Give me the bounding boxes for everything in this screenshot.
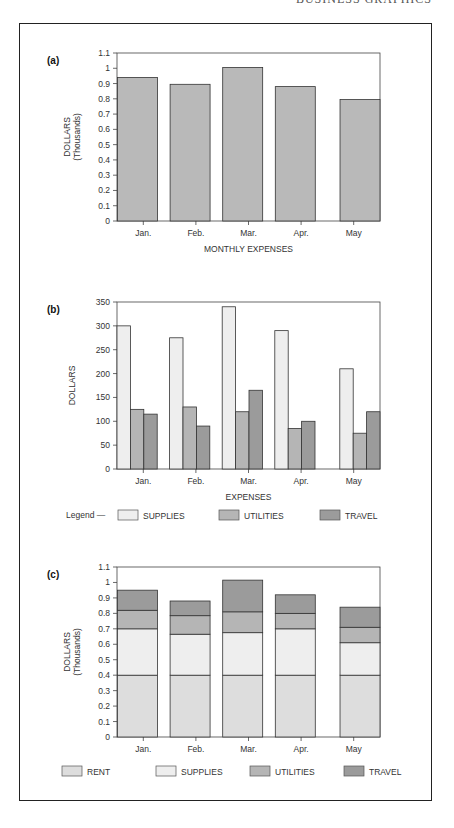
x-tick-label: May: [346, 744, 363, 754]
bar-segment: [340, 607, 380, 627]
bar-segment: [170, 675, 210, 737]
y-tick-label: 100: [96, 416, 110, 426]
y-axis-label: DOLLARS(Thousands): [62, 113, 82, 161]
legend-swatch: [219, 510, 239, 520]
bar-segment: [118, 610, 158, 629]
y-tick-label: 0.5: [98, 655, 110, 665]
y-tick-label: 0.9: [98, 79, 110, 89]
bar-segment: [340, 627, 380, 642]
legend-label: TRAVEL: [345, 511, 378, 521]
x-tick-label: Feb.: [187, 228, 204, 238]
x-tick-label: Mar.: [240, 476, 257, 486]
y-tick-label: 250: [96, 345, 110, 355]
y-axis-label: DOLLARS: [67, 365, 77, 405]
y-tick-label: 0: [105, 732, 110, 742]
y-tick-label: 0.8: [98, 94, 110, 104]
legend-prefix: Legend —: [66, 510, 106, 520]
x-tick-label: Mar.: [240, 744, 257, 754]
y-axis-label: DOLLARS(Thousands): [62, 628, 82, 676]
legend-swatch: [320, 510, 340, 520]
y-tick-label: 0: [105, 216, 110, 226]
y-tick-label: 50: [101, 440, 111, 450]
legend-swatch: [250, 766, 270, 776]
y-tick-label: 150: [96, 392, 110, 402]
y-tick-label: 0.8: [98, 608, 110, 618]
bar: [275, 87, 315, 221]
bar-segment: [170, 601, 210, 616]
bar: [353, 433, 366, 469]
bar: [340, 100, 380, 221]
bar: [302, 421, 315, 469]
legend-label: SUPPLIES: [181, 767, 223, 777]
bar: [196, 426, 209, 469]
x-tick-label: Jan.: [135, 744, 151, 754]
bar-segment: [170, 634, 210, 675]
x-tick-label: May: [346, 476, 363, 486]
y-tick-label: 0: [105, 464, 110, 474]
legend-swatch: [62, 766, 82, 776]
bar: [223, 68, 263, 221]
bar: [249, 390, 262, 469]
bar-segment: [223, 612, 263, 633]
bar-segment: [118, 629, 158, 675]
panel-label: (b): [47, 304, 60, 315]
y-tick-label: 1: [105, 63, 110, 73]
bar: [275, 331, 288, 469]
bar: [144, 414, 157, 469]
x-axis-label: MONTHLY EXPENSES: [204, 244, 293, 254]
y-tick-label: 0.3: [98, 686, 110, 696]
x-tick-label: Jan.: [135, 228, 151, 238]
bar: [170, 84, 210, 221]
bar-segment: [223, 580, 263, 612]
y-tick-label: 1.1: [98, 48, 110, 58]
bar-segment: [340, 675, 380, 737]
legend-label: UTILITIES: [275, 767, 315, 777]
y-tick-label: 0.4: [98, 155, 110, 165]
bar-segment: [275, 629, 315, 675]
x-tick-label: Feb.: [187, 476, 204, 486]
bar-segment: [223, 675, 263, 737]
bar: [170, 338, 183, 469]
y-tick-label: 0.7: [98, 109, 110, 119]
y-tick-label: 200: [96, 369, 110, 379]
y-tick-label: 0.6: [98, 639, 110, 649]
y-tick-label: 0.1: [98, 201, 110, 211]
legend-swatch: [344, 766, 364, 776]
panel-label: (c): [47, 569, 59, 580]
legend-label: SUPPLIES: [143, 511, 185, 521]
x-tick-label: Apr.: [294, 476, 309, 486]
panel-label: (a): [47, 55, 59, 66]
y-tick-label: 0.5: [98, 140, 110, 150]
y-tick-label: 0.2: [98, 701, 110, 711]
y-tick-label: 0.7: [98, 624, 110, 634]
bar: [222, 307, 235, 469]
x-tick-label: Apr.: [294, 228, 309, 238]
x-tick-label: Jan.: [135, 476, 151, 486]
bar-segment: [170, 616, 210, 635]
bar-segment: [275, 675, 315, 737]
bar: [130, 409, 143, 469]
legend-swatch: [118, 510, 138, 520]
legend-swatch: [156, 766, 176, 776]
bar-segment: [118, 675, 158, 737]
legend-label: RENT: [87, 767, 110, 777]
bar: [117, 326, 130, 469]
x-tick-label: Feb.: [187, 744, 204, 754]
y-tick-label: 0.9: [98, 593, 110, 603]
bar-segment: [275, 613, 315, 628]
x-tick-label: Apr.: [294, 744, 309, 754]
y-tick-label: 0.6: [98, 124, 110, 134]
y-tick-label: 1: [105, 577, 110, 587]
x-axis-label: EXPENSES: [226, 492, 272, 502]
charts-canvas: (a)00.10.20.30.40.50.60.70.80.911.1Jan.F…: [0, 0, 454, 828]
bar: [340, 369, 353, 469]
legend-label: TRAVEL: [369, 767, 402, 777]
x-tick-label: May: [346, 228, 363, 238]
legend-label: UTILITIES: [244, 511, 284, 521]
bar: [236, 412, 249, 469]
bar-segment: [275, 595, 315, 614]
y-tick-label: 1.1: [98, 562, 110, 572]
y-tick-label: 0.4: [98, 670, 110, 680]
bar: [118, 77, 158, 221]
bar: [288, 428, 301, 469]
